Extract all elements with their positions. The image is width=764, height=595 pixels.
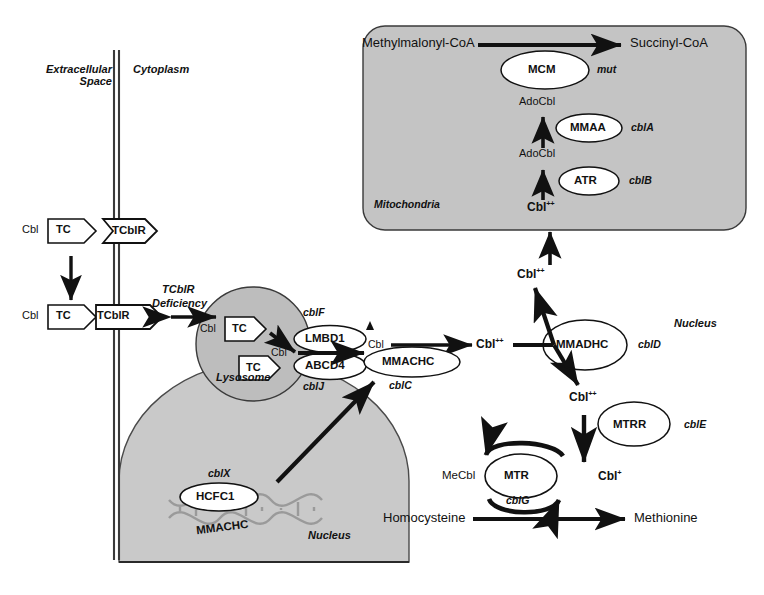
cble-gene-label: cblE [684, 419, 706, 430]
lmbd1-label: LMBD1 [305, 332, 345, 344]
pathway-diagram: Extracellular Space Cytoplasm Mitochondr… [0, 0, 764, 595]
cblx-gene-label: cblX [208, 468, 230, 479]
cbl-lysosome-entry-label: Cbl [200, 323, 216, 334]
cblj-gene-label: cblJ [303, 381, 324, 392]
cbl-1plus-label: Cbl+ [598, 469, 621, 483]
cbl-internalized-label: Cbl [22, 310, 39, 322]
adocbl-upper-label: AdoCbl [519, 96, 555, 108]
lysosome-label: Lysosome [216, 372, 270, 384]
tcblr-deficiency-line1: TCblR [162, 284, 194, 296]
mmachc-label: MMACHC [382, 355, 434, 367]
methylmalonyl-coa-label: Methylmalonyl-CoA [362, 36, 475, 50]
cbla-gene-label: cblA [631, 122, 654, 133]
abcd4-label: ABCD4 [305, 359, 345, 371]
methionine-label: Methionine [634, 511, 698, 525]
mtr-label: MTR [504, 469, 529, 481]
hcfc1-label: HCFC1 [196, 490, 234, 502]
lysosome-shape [196, 287, 310, 401]
diagram-canvas [0, 0, 764, 595]
mut-gene-label: mut [597, 64, 616, 75]
cbl-2plus-cytoplasm-label: Cbl++ [476, 337, 503, 351]
tc-extracellular-label: TC [56, 224, 71, 236]
mitochondria-label: Mitochondria [374, 199, 440, 210]
cblg-gene-label: cblG [506, 495, 529, 506]
mmadhc-label: MMADHC [556, 338, 608, 350]
succinyl-coa-label: Succinyl-CoA [630, 36, 708, 50]
homocysteine-label: Homocysteine [383, 511, 465, 525]
cbl-cytoplasm-label: Cbl [368, 339, 384, 350]
tc-lysosome-bound-label: TC [232, 323, 247, 335]
tc-lysosome-free-label: TC [246, 362, 261, 374]
cblb-gene-label: cblB [629, 175, 652, 186]
mcm-label: MCM [528, 63, 555, 75]
mtrr-label: MTRR [613, 418, 646, 430]
cbl-extracellular-label: Cbl [22, 224, 39, 236]
tcblr-bottom-label: TCblR [97, 310, 129, 322]
tc-internalized-label: TC [56, 310, 71, 322]
extracellular-space-label: Extracellular Space [40, 64, 112, 87]
cbl-2plus-upper-branch-label: Cbl++ [517, 267, 544, 281]
cytoplasm-label: Cytoplasm [133, 64, 189, 76]
nucleus-right-label: Nucleus [674, 318, 717, 330]
triangle-marker [366, 321, 374, 330]
tcblr-deficiency-line2: Deficiency [152, 298, 207, 310]
cbl-2plus-lower-branch-label: Cbl++ [569, 390, 596, 404]
cbl-2plus-mitochondria-label: Cbl++ [527, 200, 554, 214]
cbl-released-label: Cbl [271, 347, 287, 358]
atr-label: ATR [574, 174, 597, 186]
cblc-gene-label: cblC [389, 380, 412, 391]
mecbl-label: MeCbl [442, 469, 475, 481]
mmaa-label: MMAA [570, 121, 606, 133]
cblf-gene-label: cblF [303, 307, 325, 318]
tcblr-top-label: TCblR [112, 224, 146, 236]
nucleus-organelle-label: Nucleus [308, 530, 351, 542]
adocbl-lower-label: AdoCbl [519, 148, 555, 160]
cbld-gene-label: cblD [638, 339, 661, 350]
